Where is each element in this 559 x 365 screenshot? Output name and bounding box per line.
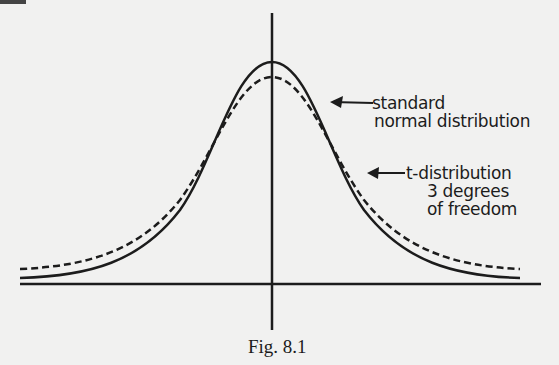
normal-label-line2: normal distribution <box>374 112 530 130</box>
t-label-line1: t-distribution <box>406 164 511 182</box>
arrowhead-icon <box>367 167 379 179</box>
t-label-line3: of freedom <box>427 200 517 218</box>
figure-caption: Fig. 8.1 <box>248 336 307 358</box>
t-label-line2: 3 degrees <box>427 182 509 200</box>
normal-label-line1: standard <box>372 94 445 112</box>
arrowhead-icon <box>330 96 343 108</box>
